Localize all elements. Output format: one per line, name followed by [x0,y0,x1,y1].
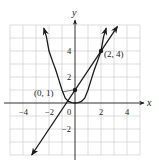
point-0-1 [73,88,77,92]
graph: x y −4 −2 0 2 4 4 2 −2 (0, 1) (2, 4) [0,0,159,167]
y-axis-label: y [71,7,77,18]
point-2-4 [99,49,103,53]
tick-y-neg2: −2 [62,124,71,134]
tick-x-2: 2 [99,107,103,117]
tick-x-4: 4 [125,107,130,117]
tick-x-neg4: −4 [19,107,29,117]
leader-line [62,90,73,92]
tick-x-neg2: −2 [45,107,54,117]
point-label-0-1: (0, 1) [34,88,54,98]
point-label-2-4: (2, 4) [104,49,124,59]
x-axis-label: x [146,97,152,108]
tick-y-2: 2 [67,72,71,82]
tick-x-0: 0 [67,107,71,117]
